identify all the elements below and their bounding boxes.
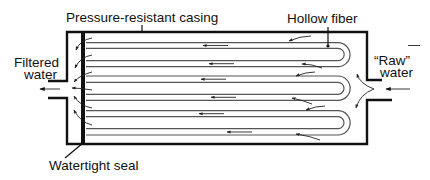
fiber-loop-2-inner	[86, 82, 344, 94]
filtered-water-label-line2: water	[23, 67, 58, 82]
hollow-fiber-label: Hollow fiber	[287, 11, 358, 26]
raw-water-label-line2: water	[379, 65, 414, 80]
fiber-leader-dot	[326, 44, 329, 47]
fiber-loop-3-outer	[86, 111, 350, 135]
hollow-fibers	[86, 43, 350, 135]
raw-water-flow-arrows	[289, 36, 325, 140]
hollow-fiber-diagram: Pressure-resistant casing Hollow fiber F…	[0, 0, 430, 180]
fiber-loop-1-inner	[86, 48, 344, 60]
watertight-seal-label: Watertight seal	[49, 158, 139, 173]
seal-leader-line	[65, 143, 83, 158]
casing-label: Pressure-resistant casing	[66, 10, 218, 25]
fiber-loop-1-outer	[86, 43, 350, 67]
fiber-loop-3-inner	[86, 117, 344, 129]
